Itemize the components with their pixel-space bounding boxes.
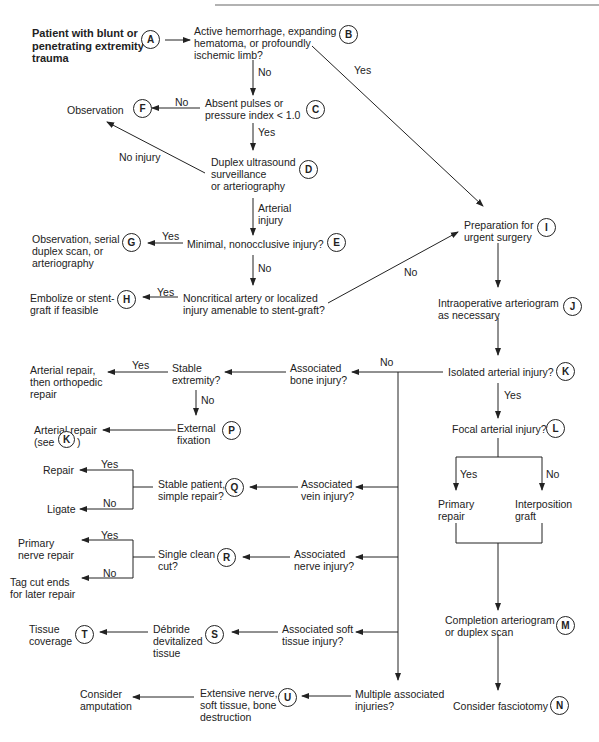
repair-text: Repair (43, 464, 74, 476)
node-d-text: Duplex ultrasound surveillance or arteri… (211, 156, 296, 192)
node-g-text: Observation, serial duplex scan, or arte… (32, 233, 120, 269)
node-h-text: Embolize or stent- graft if feasible (30, 292, 115, 316)
edge-label-l-yes: Yes (460, 468, 477, 480)
edge-label-l-no: No (546, 468, 559, 480)
edge-label-stable-yes: Yes (132, 359, 149, 371)
edge-label-q-no: No (103, 497, 116, 509)
edge-label-c-f-no: No (175, 96, 188, 108)
arterial-ortho-text: Arterial repair, then orthopedic repair (30, 364, 102, 400)
node-n-text: Consider fasciotomy (453, 700, 548, 712)
bone-injury-text: Associated bone injury? (290, 362, 347, 386)
primary-nerve-repair-text: Primary nerve repair (18, 537, 74, 561)
edge-label-d-f-no-injury: No injury (119, 151, 160, 163)
stable-extremity-text: Stable extremity? (172, 362, 220, 386)
node-p-text: External fixation (177, 422, 216, 446)
soft-tissue-injury-text: Associated soft tissue injury? (282, 623, 353, 647)
edge-label-c-d-yes: Yes (258, 126, 275, 138)
node-h-question-text: Noncritical artery or localized injury a… (183, 292, 325, 316)
node-l-text: Focal arterial injury? (452, 423, 547, 435)
edge-label-e-g-yes: Yes (162, 230, 179, 242)
edge-label-k-no: No (380, 356, 393, 368)
node-b-circle: B (339, 25, 358, 44)
node-c-circle: C (306, 100, 325, 119)
node-t-text: Tissue coverage (29, 623, 72, 647)
node-s-circle: S (205, 625, 224, 644)
edge-label-h-yes: Yes (157, 286, 174, 298)
node-j-circle: J (563, 297, 582, 316)
interposition-graft-text: Interposition graft (515, 498, 572, 522)
node-f-circle: F (133, 99, 152, 118)
node-b-text: Active hemorrhage, expanding hematoma, o… (194, 25, 336, 61)
node-m-circle: M (556, 616, 575, 635)
node-h-circle: H (117, 290, 136, 309)
see-k-close-paren: ) (77, 436, 81, 448)
edge-label-r-no: No (103, 567, 116, 579)
node-m-text: Completion arteriogram or duplex scan (445, 614, 555, 638)
node-k-circle: K (556, 362, 575, 381)
node-q-text: Stable patient, simple repair? (158, 478, 225, 502)
node-r-circle: R (217, 548, 236, 567)
node-e-text: Minimal, nonocclusive injury? (187, 238, 324, 250)
edge-label-h-i-no: No (404, 266, 417, 278)
node-a-circle: A (141, 30, 160, 49)
node-f-text: Observation (67, 104, 124, 116)
edge-label-b-i-yes: Yes (354, 64, 371, 76)
node-c-text: Absent pulses or pressure index < 1.0 (205, 97, 300, 121)
node-n-circle: N (550, 696, 569, 715)
node-l-circle: L (546, 419, 565, 438)
node-g-circle: G (122, 233, 141, 252)
node-t-circle: T (75, 625, 94, 644)
edge-label-k-l-yes: Yes (504, 389, 521, 401)
primary-repair-text: Primary repair (438, 498, 474, 522)
node-p-circle: P (222, 421, 241, 440)
edge-label-b-c-no: No (258, 66, 271, 78)
node-k-text: Isolated arterial injury? (448, 366, 554, 378)
consider-amputation-text: Consider amputation (80, 688, 132, 712)
node-i-circle: I (537, 218, 556, 237)
node-r-text: Single clean cut? (158, 548, 215, 572)
node-d-circle: D (299, 160, 318, 179)
node-u-circle: U (278, 688, 297, 707)
multiple-injuries-text: Multiple associated injuries? (355, 688, 444, 712)
vein-injury-text: Associated vein injury? (301, 478, 354, 502)
node-a-text: Patient with blunt or penetrating extrem… (32, 27, 144, 65)
node-q-circle: Q (225, 478, 244, 497)
edge-label-e-h-no: No (258, 262, 271, 274)
node-i-text: Preparation for urgent surgery (464, 219, 533, 243)
tag-cut-ends-text: Tag cut ends for later repair (10, 576, 75, 600)
edge-label-stable-no: No (201, 394, 214, 406)
edge-label-r-yes: Yes (101, 529, 118, 541)
node-e-circle: E (327, 233, 346, 252)
see-k-circle: K (58, 431, 75, 448)
ligate-text: Ligate (47, 503, 76, 515)
nerve-injury-text: Associated nerve injury? (294, 548, 354, 572)
node-s-text: Débride devitalized tissue (153, 623, 203, 659)
node-j-text: Intraoperative arteriogram as necessary (438, 297, 559, 321)
node-u-text: Extensive nerve, soft tissue, bone destr… (200, 687, 278, 723)
edge-label-d-e-arterial-injury: Arterial injury (258, 202, 291, 226)
edge-label-q-yes: Yes (101, 458, 118, 470)
